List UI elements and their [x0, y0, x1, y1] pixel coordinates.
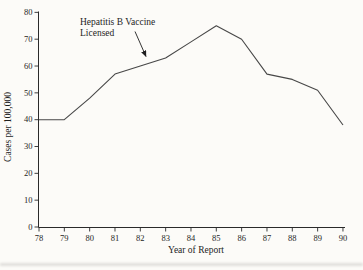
x-tick-label: 87: [263, 233, 272, 243]
x-tick-label: 90: [339, 233, 348, 243]
x-axis-title: Year of Report: [168, 245, 224, 255]
data-series: [39, 26, 343, 125]
axes: 0102030405060708078798081828384858687888…: [24, 7, 347, 243]
x-tick-label: 83: [161, 233, 170, 243]
annotation-text-line2: Licensed: [80, 28, 115, 38]
chart-canvas: 0102030405060708078798081828384858687888…: [0, 0, 363, 270]
scan-artifact-line: [0, 263, 363, 266]
y-tick-label: 50: [24, 88, 33, 98]
y-tick-label: 10: [24, 195, 33, 205]
y-tick-label: 60: [24, 61, 33, 71]
y-tick-label: 80: [24, 7, 33, 17]
x-tick-label: 89: [313, 233, 322, 243]
y-tick-label: 70: [24, 34, 33, 44]
y-axis-title: Cases per 100,000: [3, 92, 13, 162]
x-tick-label: 86: [237, 233, 246, 243]
y-tick-label: 0: [28, 222, 32, 232]
y-tick-label: 40: [24, 114, 33, 124]
hepatitis-b-line-chart: 0102030405060708078798081828384858687888…: [0, 0, 363, 270]
x-tick-label: 88: [288, 233, 297, 243]
x-tick-label: 78: [35, 233, 44, 243]
data-polyline: [39, 26, 343, 125]
x-tick-label: 80: [85, 233, 94, 243]
y-tick-label: 20: [24, 168, 33, 178]
x-tick-label: 79: [60, 233, 69, 243]
x-tick-label: 81: [111, 233, 120, 243]
x-tick-label: 85: [212, 233, 221, 243]
x-tick-label: 82: [136, 233, 145, 243]
axis-frame: [39, 12, 346, 228]
annotation-arrow-icon: [135, 32, 146, 57]
y-tick-label: 30: [24, 141, 33, 151]
annotation-text-line1: Hepatitis B Vaccine: [80, 17, 155, 27]
x-tick-label: 84: [187, 233, 196, 243]
